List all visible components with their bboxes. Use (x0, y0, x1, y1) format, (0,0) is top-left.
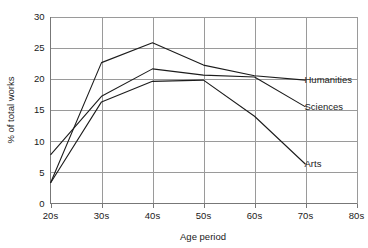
series-label-sciences: Sciences (305, 101, 344, 112)
y-tick-label-20: 20 (34, 73, 45, 84)
y-tick-label-15: 15 (34, 104, 45, 115)
x-tick-label-60s: 60s (247, 210, 263, 221)
line-chart: 051015202530 20s30s40s50s60s70s80s Human… (0, 0, 368, 248)
series-label-humanities: Humanities (305, 74, 353, 85)
chart-container: 051015202530 20s30s40s50s60s70s80s Human… (0, 0, 368, 248)
x-tick-label-50s: 50s (196, 210, 212, 221)
y-tick-label-25: 25 (34, 42, 45, 53)
x-tick-label-80s: 80s (349, 210, 365, 221)
y-tick-label-0: 0 (39, 198, 44, 209)
y-tick-label-10: 10 (34, 136, 45, 147)
x-tick-label-20s: 20s (43, 210, 59, 221)
series-label-arts: Arts (305, 158, 322, 169)
y-axis-title: % of total works (5, 76, 16, 143)
x-tick-label-30s: 30s (94, 210, 110, 221)
y-tick-label-30: 30 (34, 11, 45, 22)
x-tick-label-40s: 40s (145, 210, 161, 221)
x-tick-label-70s: 70s (298, 210, 314, 221)
x-axis-title: Age period (180, 231, 226, 242)
y-tick-label-5: 5 (39, 167, 44, 178)
